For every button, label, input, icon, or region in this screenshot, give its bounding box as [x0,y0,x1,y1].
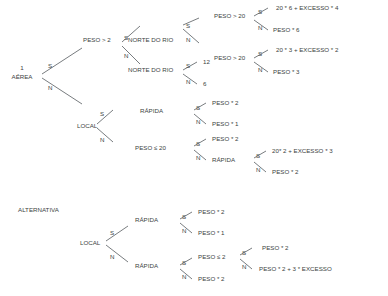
branch-label-norte1-no: N [186,36,190,43]
node-alt-rapida-2: RÁPIDA [135,262,159,269]
branch-label-altrapida1-yes: S [182,213,186,220]
branch-label-norte2-no: N [186,78,190,85]
tree-canvas: 1 AÉREA S PESO > 2 N LOCAL S NORTE DO RI… [0,0,388,296]
branch-label-peso20a-no: N [258,24,262,31]
node-norte-do-rio-1: NORTE DO RIO [128,36,173,43]
branch-label-rapida1-no: N [196,118,200,125]
leaf-d1: PESO * 2 [212,99,239,106]
node-alt-local: LOCAL [80,239,101,246]
node-peso-le-20: PESO ≤ 20 [135,144,166,151]
branch-label-altpesole2-yes: S [242,249,246,256]
branch-label-pesole20-no: N [196,154,200,161]
branch-label-peso20b-yes: S [258,50,262,57]
branch-label-altrapida2-yes: S [182,259,186,266]
branch-label-altrapida1-no: N [182,227,186,234]
node-norte-do-rio-2: NORTE DO RIO [128,66,173,73]
branch-label-pesole20-yes: S [196,140,200,147]
branch-label-peso2-no: N [124,52,128,59]
leaf-a1: 20 * 6 + EXCESSO * 4 [276,4,339,11]
leaf-h1: PESO * 2 [262,244,289,251]
node-peso-gt-2: PESO > 2 [83,36,111,43]
branch-label-altpesole2-no: N [242,263,246,270]
branch-label-root-yes: S [48,62,52,69]
branch-label-norte2-yes: S [186,62,190,69]
branch-label-rapida1-yes: S [196,104,200,111]
edge-root-no [42,78,82,104]
branch-label-altlocal-yes: S [110,229,114,236]
root-index: 1 [20,64,24,71]
section-label-alternativa: ALTERNATIVA [18,206,60,213]
edge-root-yes [42,48,82,74]
node-peso-gt-20-b: PESO > 20 [214,54,246,61]
branch-label-local-yes: S [100,110,104,117]
branch-label-rapida2-yes: S [256,152,260,159]
leaf-g2: PESO * 1 [198,229,225,236]
branch-label-altlocal-no: N [110,253,114,260]
leaf-f1: 20* 2 + EXCESSO * 3 [272,147,333,154]
node-alt-rapida-1: RÁPIDA [135,216,159,223]
node-root-aerea: AÉREA [12,73,34,80]
leaf-c1: 12 [203,58,210,65]
leaf-b2: PESO * 3 [273,68,300,75]
branch-label-peso20b-no: N [258,66,262,73]
branch-label-altrapida2-no: N [182,273,186,280]
leaf-f2: PESO * 2 [272,168,299,175]
node-alt-peso-le-2: PESO ≤ 2 [198,253,226,260]
branch-label-local-no: N [100,136,104,143]
node-rapida-2: RÁPIDA [212,156,236,163]
leaf-c2: 6 [203,80,207,87]
leaf-g1: PESO * 2 [198,208,225,215]
branch-label-rapida2-no: N [256,166,260,173]
branch-label-norte1-yes: S [186,22,190,29]
node-rapida-1: RÁPIDA [140,107,164,114]
leaf-d2: PESO * 1 [212,120,239,127]
node-local: LOCAL [77,122,98,129]
leaf-a2: PESO * 6 [273,26,300,33]
decision-tree-diagram: 1 AÉREA S PESO > 2 N LOCAL S NORTE DO RI… [0,0,388,296]
leaf-b1: 20 * 3 + EXCESSO * 2 [276,46,339,53]
leaf-e1: PESO * 2 [212,135,239,142]
leaf-i2: PESO * 2 [198,275,225,282]
leaf-h2: PESO * 2 + 3 * EXCESSO [259,265,332,272]
branch-label-root-no: N [48,84,52,91]
node-peso-gt-20-a: PESO > 20 [214,12,246,19]
branch-label-peso20a-yes: S [258,8,262,15]
